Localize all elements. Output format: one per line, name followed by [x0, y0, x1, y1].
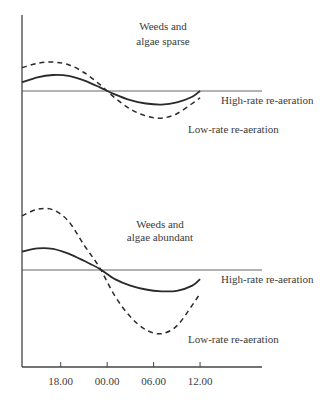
x-tick-label: 00.00: [95, 375, 120, 387]
panel-title-line-2: algae sparse: [136, 35, 190, 47]
legend-label-high-rate: High-rate re-aeration: [221, 94, 314, 106]
legend-label-high-rate: High-rate re-aeration: [221, 273, 314, 285]
x-tick-label: 12.00: [188, 375, 213, 387]
x-ticks: 18.0000.0006.0012.00: [48, 362, 213, 387]
panel-title-line-1: Weeds and: [136, 218, 184, 230]
panel-title-line-1: Weeds and: [139, 20, 187, 32]
legend-label-low-rate: Low-rate re-aeration: [188, 123, 279, 135]
legend-label-low-rate: Low-rate re-aeration: [188, 333, 279, 345]
panel-abundant: Weeds and algae abundant High-rate re-ae…: [22, 208, 314, 345]
series-line-low-rate-sparse: [22, 62, 200, 118]
panel-sparse: Weeds and algae sparse High-rate re-aera…: [22, 20, 314, 135]
panel-title-line-2: algae abundant: [127, 231, 193, 243]
x-tick-label: 06.00: [141, 375, 166, 387]
series-line-high-rate-sparse: [22, 75, 200, 105]
x-tick-label: 18.00: [48, 375, 73, 387]
diel-oxygen-chart: 18.0000.0006.0012.00 Weeds and algae spa…: [0, 0, 334, 406]
